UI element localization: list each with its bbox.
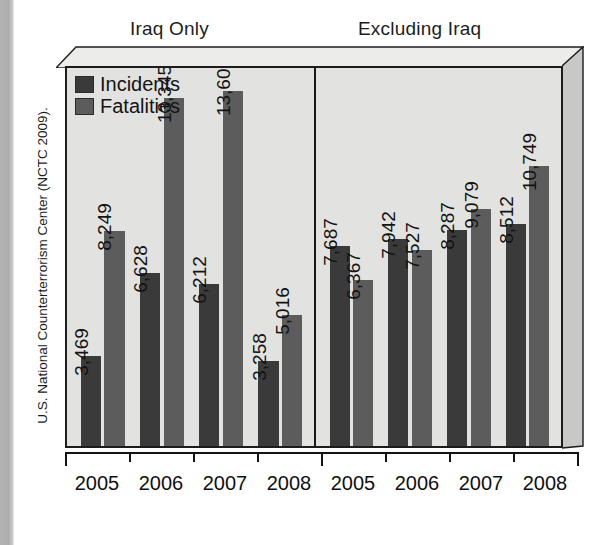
chart-box-right-face (562, 46, 584, 476)
legend-swatch-fatalities (75, 98, 94, 115)
bar-incidents-2006[interactable]: 6,628 (140, 273, 160, 446)
x-tick-label-2005: 2005 (321, 468, 385, 502)
bar-value-label: 8,287 (438, 202, 457, 250)
x-axis-labels: 2005200620072008 2005200620072008 (65, 468, 577, 502)
bar-value-label: 3,258 (250, 333, 269, 381)
bar-value-label: 6,628 (131, 245, 150, 293)
bar-incidents-2008[interactable]: 8,512 (506, 224, 526, 446)
bar-value-label: 3,469 (72, 328, 91, 376)
legend-swatch-incidents (75, 76, 94, 93)
bar-fatalities-2008[interactable]: 10,749 (529, 166, 549, 446)
bar-group-2008: 8,51210,749 (498, 68, 557, 446)
x-axis-tick (385, 452, 387, 462)
bar-value-label: 7,687 (321, 218, 340, 266)
chart-legend: Incidents Fatalities (75, 74, 180, 118)
bar-slot: 13,345 (162, 68, 186, 446)
x-axis-tick (577, 452, 579, 466)
x-tick-label-2006: 2006 (129, 468, 193, 502)
bar-value-label: 8,249 (95, 203, 114, 251)
page-scan-edge-artifact (0, 0, 14, 545)
legend-label-incidents: Incidents (100, 74, 180, 94)
x-axis-tick (449, 452, 451, 462)
bar-incidents-2005[interactable]: 3,469 (81, 356, 101, 446)
x-axis-tick (257, 452, 259, 462)
bar-group-2005: 3,4698,249 (73, 68, 132, 446)
bar-slot: 6,628 (138, 68, 162, 446)
panel-title-excluding-iraq: Excluding Iraq (358, 18, 481, 40)
x-axis-tick (513, 452, 515, 462)
bar-fatalities-2006[interactable]: 13,345 (164, 98, 184, 446)
bar-fatalities-2007[interactable]: 9,079 (471, 209, 491, 446)
bar-group-2006: 6,62813,345 (132, 68, 191, 446)
bar-group-2007: 6,21213,606 (192, 68, 251, 446)
bar-panel-excluding-iraq: 7,6876,3677,9427,5278,2879,0798,51210,74… (314, 68, 561, 446)
bar-slot: 10,749 (528, 68, 552, 446)
chart-3d-box: Incidents Fatalities 3,4698,2496,62813,3… (56, 46, 584, 476)
bar-value-label: 7,527 (403, 222, 422, 270)
legend-item-incidents: Incidents (75, 74, 180, 94)
bar-fatalities-2005[interactable]: 6,367 (353, 280, 373, 446)
bar-slot: 6,367 (351, 68, 375, 446)
bar-slot: 5,016 (280, 68, 304, 446)
bar-fatalities-2007[interactable]: 13,606 (223, 91, 243, 446)
bar-group-2005: 7,6876,367 (322, 68, 381, 446)
bar-slot: 8,287 (445, 68, 469, 446)
legend-label-fatalities: Fatalities (100, 96, 180, 116)
bar-value-label: 6,212 (190, 256, 209, 304)
bar-value-label: 9,079 (462, 182, 481, 230)
bar-incidents-2006[interactable]: 7,942 (388, 239, 408, 446)
bar-slot: 6,212 (197, 68, 221, 446)
bar-value-label: 13,606 (214, 66, 233, 116)
bar-incidents-2007[interactable]: 6,212 (199, 284, 219, 446)
x-axis-labels-excluding-iraq: 2005200620072008 (321, 468, 577, 502)
x-tick-label-2005: 2005 (65, 468, 129, 502)
bar-value-label: 5,016 (273, 287, 292, 335)
source-caption: U.S. National Counterterrorism Center (N… (35, 56, 50, 476)
chart-box-top-face (56, 46, 584, 68)
x-tick-label-2007: 2007 (193, 468, 257, 502)
bar-value-label: 6,367 (344, 252, 363, 300)
bar-incidents-2007[interactable]: 8,287 (447, 230, 467, 446)
x-tick-label-2007: 2007 (449, 468, 513, 502)
bar-slot: 8,249 (103, 68, 127, 446)
panel-title-iraq-only: Iraq Only (130, 18, 209, 40)
bar-slot: 8,512 (504, 68, 528, 446)
bar-group-2006: 7,9427,527 (381, 68, 440, 446)
x-axis-tick (193, 452, 195, 462)
bar-group-2008: 3,2585,016 (251, 68, 310, 446)
bar-value-label: 7,942 (379, 211, 398, 259)
plot-area: Incidents Fatalities 3,4698,2496,62813,3… (65, 66, 563, 448)
x-tick-label-2006: 2006 (385, 468, 449, 502)
x-axis-labels-iraq-only: 2005200620072008 (65, 468, 321, 502)
panel-divider-tick (321, 452, 323, 466)
bar-fatalities-2006[interactable]: 7,527 (412, 250, 432, 446)
bar-panel-iraq-only: 3,4698,2496,62813,3456,21213,6063,2585,0… (67, 68, 314, 446)
bar-value-label: 8,512 (497, 196, 516, 244)
legend-item-fatalities: Fatalities (75, 96, 180, 116)
x-tick-label-2008: 2008 (513, 468, 577, 502)
bars-container: 3,4698,2496,62813,3456,21213,6063,2585,0… (67, 68, 561, 446)
bar-group-2007: 8,2879,079 (440, 68, 499, 446)
bar-slot: 3,469 (79, 68, 103, 446)
bar-slot: 7,527 (410, 68, 434, 446)
bar-value-label: 10,749 (520, 133, 539, 191)
bar-slot: 9,079 (469, 68, 493, 446)
x-tick-label-2008: 2008 (257, 468, 321, 502)
bar-incidents-2008[interactable]: 3,258 (258, 361, 278, 446)
x-axis-tick (129, 452, 131, 462)
bar-slot: 3,258 (257, 68, 281, 446)
x-axis-tick (65, 452, 67, 466)
bar-fatalities-2005[interactable]: 8,249 (104, 231, 124, 446)
bar-slot: 13,606 (221, 68, 245, 446)
bar-fatalities-2008[interactable]: 5,016 (282, 315, 302, 446)
